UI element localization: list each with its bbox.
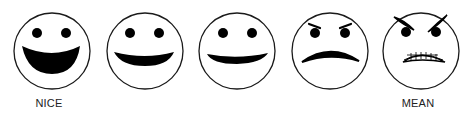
face-smile-icon bbox=[107, 13, 183, 89]
label-mean: MEAN bbox=[402, 97, 435, 109]
nice-mean-scale: NICE MEAN bbox=[0, 0, 470, 116]
face-nice-icon bbox=[14, 13, 90, 89]
faces-svg bbox=[0, 0, 470, 116]
face-mean-icon bbox=[383, 13, 459, 89]
label-nice: NICE bbox=[35, 97, 62, 109]
face-frown-icon bbox=[292, 13, 368, 89]
face-slight-smile-icon bbox=[199, 13, 275, 89]
